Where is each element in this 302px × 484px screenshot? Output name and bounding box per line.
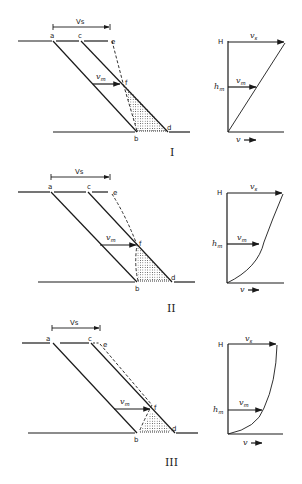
point-d: d <box>167 124 171 132</box>
point-c: c <box>78 32 82 40</box>
slope-section-1: Vs vm a c e f b d <box>18 18 190 143</box>
point-a: a <box>48 183 52 191</box>
panel-1: Vs vm a c e f b d <box>18 18 285 159</box>
h-top-label: H <box>218 341 223 349</box>
v-axis-label: v <box>243 438 248 447</box>
point-c: c <box>87 183 91 191</box>
point-b: b <box>134 135 139 143</box>
panel-3: Vs vm a c e f b d H <box>22 319 283 469</box>
h-top-label: H <box>217 189 222 197</box>
point-e: e <box>113 189 117 197</box>
point-d: d <box>172 425 176 433</box>
vm-profile-label: vm <box>239 398 249 408</box>
vm-profile-label: vm <box>236 76 246 86</box>
vm-profile-label: vm <box>237 233 247 243</box>
vs-bracket-label: Vs <box>75 168 84 176</box>
point-a: a <box>46 335 50 343</box>
panel-numeral: III <box>165 456 178 469</box>
vs-label: vs <box>250 182 258 192</box>
hm-label: hm <box>214 82 224 92</box>
vm-label: vm <box>106 233 116 243</box>
panel-numeral: I <box>170 146 174 159</box>
vs-bracket-label: Vs <box>76 18 85 26</box>
v-axis-label: v <box>240 285 245 294</box>
point-f: f <box>139 240 142 248</box>
panel-numeral: II <box>167 302 176 315</box>
h-top-label: H <box>218 38 223 46</box>
point-b: b <box>135 285 140 293</box>
vm-label: vm <box>120 397 130 407</box>
point-b: b <box>134 436 139 444</box>
point-a: a <box>50 32 54 40</box>
retreated-slope-cd <box>88 192 172 282</box>
retreated-slope-cd <box>91 343 175 433</box>
velocity-profile-curve <box>228 345 277 434</box>
point-e: e <box>111 38 115 46</box>
v-axis-label: v <box>236 135 241 144</box>
vm-label: vm <box>96 72 106 82</box>
velocity-profile-curve <box>227 194 283 283</box>
point-f: f <box>154 404 157 412</box>
original-slope-ab <box>53 343 137 433</box>
slope-section-3: Vs vm a c e f b d <box>22 319 198 444</box>
point-f: f <box>125 79 128 87</box>
original-slope-ab <box>51 192 137 282</box>
velocity-profile-3: H hm vs vm v <box>213 334 283 447</box>
velocity-profile-2: H hm vs vm v <box>212 182 284 294</box>
deposit-wedge <box>140 411 173 432</box>
vs-label: vs <box>250 31 258 41</box>
point-e: e <box>103 341 107 349</box>
point-d: d <box>171 274 175 282</box>
vs-label: vs <box>245 334 253 344</box>
point-c: c <box>88 335 92 343</box>
vs-bracket-label: Vs <box>70 319 79 327</box>
slope-section-2: Vs vm a c e f b d <box>18 168 195 293</box>
slope-retreat-diagram: Vs vm a c e f b d <box>0 0 302 484</box>
velocity-profile-1: H hm vs vm v <box>214 31 285 144</box>
dashed-line-efb <box>100 344 152 432</box>
dashed-line-efb <box>112 194 138 281</box>
hm-label: hm <box>213 405 223 415</box>
hm-label: hm <box>212 239 222 249</box>
panel-2: Vs vm a c e f b d H <box>18 168 284 315</box>
